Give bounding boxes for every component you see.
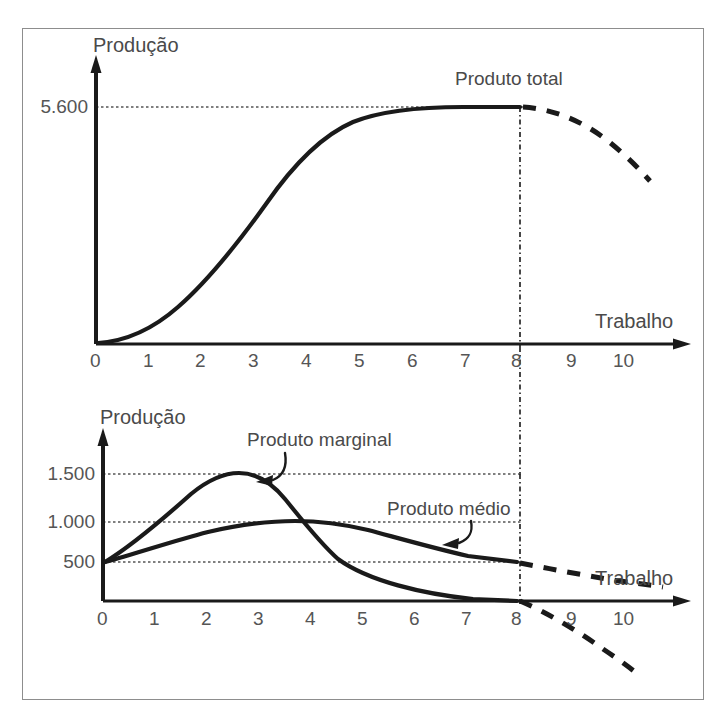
top-xtick-1: 1 bbox=[143, 351, 154, 370]
bottom-xtick-1: 1 bbox=[149, 609, 160, 628]
top-xtick-3: 3 bbox=[248, 351, 259, 370]
figure-page: Produção 5.600 Produto total Trabalho 0 … bbox=[0, 0, 726, 728]
bottom-ytick-500: 500 bbox=[33, 552, 95, 571]
top-xtick-6: 6 bbox=[407, 351, 418, 370]
bottom-xtick-5: 5 bbox=[357, 609, 368, 628]
bottom-xtick-7: 7 bbox=[461, 609, 472, 628]
top-xtick-0: 0 bbox=[90, 351, 101, 370]
bottom-xtick-6: 6 bbox=[409, 609, 420, 628]
total-product-curve bbox=[98, 107, 520, 343]
bottom-xtick-4: 4 bbox=[305, 609, 316, 628]
top-xtick-4: 4 bbox=[301, 351, 312, 370]
bottom-xtick-9: 9 bbox=[566, 609, 577, 628]
marginal-product-curve bbox=[105, 473, 517, 601]
top-y-axis-label: Produção bbox=[93, 35, 179, 55]
average-label-arrowhead bbox=[442, 538, 459, 549]
top-xtick-7: 7 bbox=[460, 351, 471, 370]
bottom-x-axis-arrow bbox=[673, 596, 691, 607]
top-xtick-5: 5 bbox=[354, 351, 365, 370]
bottom-xtick-0: 0 bbox=[97, 609, 108, 628]
total-product-label: Produto total bbox=[455, 69, 563, 88]
marginal-label-leader-arrow bbox=[273, 453, 286, 480]
bottom-ytick-1000: 1.000 bbox=[33, 512, 95, 531]
top-x-axis-arrow bbox=[673, 339, 691, 350]
top-y-axis-arrow bbox=[91, 55, 102, 73]
average-product-label: Produto médio bbox=[387, 499, 511, 518]
marginal-product-label: Produto marginal bbox=[247, 430, 392, 449]
bottom-xtick-10: 10 bbox=[613, 609, 634, 628]
top-ytick-5600: 5.600 bbox=[31, 97, 88, 116]
bottom-x-axis-label: Trabalho bbox=[595, 568, 673, 588]
bottom-xtick-3: 3 bbox=[253, 609, 264, 628]
bottom-y-axis-label: Produção bbox=[100, 407, 186, 427]
total-product-dashed-continuation bbox=[523, 107, 650, 181]
top-xtick-8: 8 bbox=[511, 351, 522, 370]
top-xtick-10: 10 bbox=[613, 351, 634, 370]
top-xtick-9: 9 bbox=[566, 351, 577, 370]
bottom-xtick-2: 2 bbox=[201, 609, 212, 628]
bottom-ytick-1500: 1.500 bbox=[33, 464, 95, 483]
average-label-leader-arrow bbox=[459, 521, 472, 543]
top-xtick-2: 2 bbox=[195, 351, 206, 370]
bottom-y-axis-arrow bbox=[98, 428, 109, 446]
top-x-axis-label: Trabalho bbox=[595, 311, 673, 331]
figure-frame: Produção 5.600 Produto total Trabalho 0 … bbox=[22, 28, 704, 700]
bottom-xtick-8: 8 bbox=[511, 609, 522, 628]
